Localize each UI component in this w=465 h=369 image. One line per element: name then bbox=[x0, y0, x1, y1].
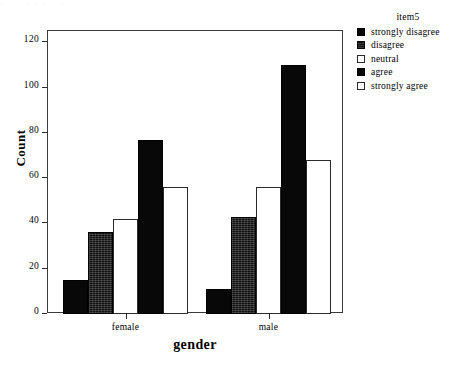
legend-item-disagree: disagree bbox=[357, 39, 465, 52]
legend-label: strongly agree bbox=[371, 81, 428, 91]
x-tick-mark bbox=[269, 314, 270, 319]
y-tick: 20 bbox=[0, 268, 47, 269]
legend-label: neutral bbox=[371, 54, 399, 64]
y-tick: 60 bbox=[0, 177, 47, 178]
legend-label: disagree bbox=[371, 40, 404, 50]
x-tick-mark bbox=[126, 314, 127, 319]
y-tick: 120 bbox=[0, 41, 47, 42]
legend-items: strongly disagreedisagreeneutralagreestr… bbox=[357, 25, 465, 92]
y-tick-label: 120 bbox=[24, 34, 39, 44]
bar-male-strongly-agree bbox=[306, 160, 331, 314]
legend-item-strongly-disagree: strongly disagree bbox=[357, 25, 465, 38]
bars-layer bbox=[48, 31, 344, 314]
y-tick-mark bbox=[42, 313, 47, 314]
y-tick-label: 0 bbox=[34, 306, 39, 316]
y-axis-title: Count bbox=[13, 103, 29, 193]
x-tick-label-female: female bbox=[86, 322, 166, 332]
x-axis-title: gender bbox=[47, 337, 343, 353]
legend-label: agree bbox=[371, 67, 393, 77]
scan-artifact: · · · · · · · · bbox=[0, 0, 465, 10]
y-tick-label: 40 bbox=[29, 215, 39, 225]
bar-male-strongly-disagree bbox=[206, 289, 231, 314]
bar-female-strongly-disagree bbox=[63, 280, 88, 314]
bar-male-neutral bbox=[256, 187, 281, 314]
x-tick-label-male: male bbox=[229, 322, 309, 332]
legend-swatch-agree bbox=[357, 68, 365, 76]
y-tick-label: 20 bbox=[29, 261, 39, 271]
legend-title: item5 bbox=[357, 12, 465, 22]
plot-area: femalemale bbox=[47, 30, 343, 313]
bar-male-agree bbox=[281, 65, 306, 314]
y-tick: 0 bbox=[0, 313, 47, 314]
y-tick: 40 bbox=[0, 222, 47, 223]
legend: item5 strongly disagreedisagreeneutralag… bbox=[357, 12, 465, 93]
legend-swatch-disagree bbox=[357, 41, 365, 49]
legend-swatch-strongly-agree bbox=[357, 82, 365, 90]
y-tick-label: 100 bbox=[24, 80, 39, 90]
bar-male-disagree bbox=[231, 217, 256, 314]
legend-item-strongly-agree: strongly agree bbox=[357, 79, 465, 92]
y-tick: 100 bbox=[0, 87, 47, 88]
bar-female-neutral bbox=[113, 219, 138, 314]
legend-swatch-strongly-disagree bbox=[357, 28, 365, 36]
bar-female-disagree bbox=[88, 232, 113, 314]
legend-item-neutral: neutral bbox=[357, 52, 465, 65]
bar-female-agree bbox=[138, 140, 163, 314]
bar-female-strongly-agree bbox=[163, 187, 188, 314]
y-tick: 80 bbox=[0, 132, 47, 133]
legend-label: strongly disagree bbox=[371, 27, 440, 37]
legend-item-agree: agree bbox=[357, 66, 465, 79]
y-axis: Count 020406080100120 bbox=[0, 0, 47, 369]
legend-swatch-neutral bbox=[357, 55, 365, 63]
y-tick-label: 80 bbox=[29, 125, 39, 135]
y-tick-label: 60 bbox=[29, 170, 39, 180]
